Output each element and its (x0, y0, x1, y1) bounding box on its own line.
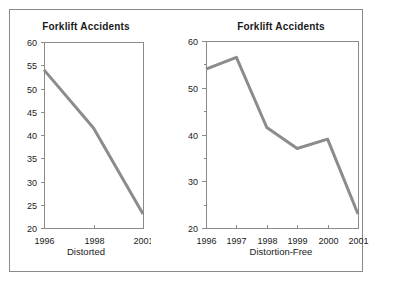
plot-border (207, 42, 359, 229)
y-tick-label: 60 (188, 37, 198, 47)
chart-title-distortion-free: Forklift Accidents (181, 21, 381, 32)
y-tick-label: 30 (27, 178, 37, 188)
y-tick-label: 20 (188, 224, 198, 234)
y-tick-label: 20 (27, 224, 37, 234)
x-tick-label: 1998 (257, 236, 277, 246)
plot-border (45, 43, 144, 229)
chart-title-distorted: Forklift Accidents (21, 21, 151, 32)
y-tick-label: 55 (27, 61, 37, 71)
y-tick-label: 50 (188, 84, 198, 94)
distorted-chart-plot: 202530354045505560199619982001 (21, 37, 151, 247)
figure-panel: Forklift Accidents 202530354045505560199… (0, 0, 394, 281)
chart-distortion-free: Forklift Accidents 203040506019961997199… (181, 21, 381, 271)
x-tick-label: 1999 (287, 236, 307, 246)
x-axis-label-distorted: Distorted (21, 246, 151, 257)
x-tick-label: 2000 (318, 236, 338, 246)
x-axis-label-distortion-free: Distortion-Free (181, 246, 381, 257)
x-tick-label: 1996 (34, 236, 54, 246)
y-tick-label: 30 (188, 177, 198, 187)
distortion-free-chart-plot: 2030405060199619971998199920002001 (181, 37, 381, 247)
x-tick-label: 1998 (84, 236, 104, 246)
x-tick-label: 1997 (226, 236, 246, 246)
y-tick-label: 45 (27, 108, 37, 118)
figure-border: Forklift Accidents 202530354045505560199… (9, 9, 363, 272)
data-line (44, 70, 143, 214)
data-line (206, 57, 358, 214)
y-tick-label: 40 (27, 131, 37, 141)
chart-distorted: Forklift Accidents 202530354045505560199… (21, 21, 151, 271)
x-tick-label: 1996 (196, 236, 216, 246)
y-tick-label: 35 (27, 154, 37, 164)
x-tick-label: 2001 (348, 236, 368, 246)
y-tick-label: 50 (27, 85, 37, 95)
y-tick-label: 40 (188, 131, 198, 141)
x-tick-label: 2001 (133, 236, 151, 246)
y-tick-label: 25 (27, 201, 37, 211)
y-tick-label: 60 (27, 38, 37, 48)
